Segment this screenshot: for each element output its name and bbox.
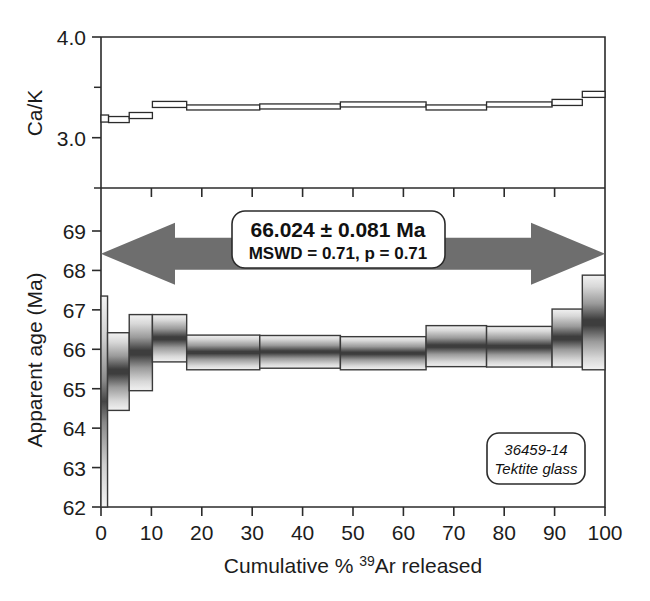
age-ytick-labels: 6968676665646362	[63, 220, 87, 519]
age-step-box	[108, 333, 130, 411]
age-step-box	[552, 309, 582, 367]
ca-k-step-box	[187, 105, 260, 110]
age-step-box	[152, 315, 186, 362]
age-ytick-label: 63	[63, 457, 86, 480]
ca-k-step-box	[129, 113, 152, 119]
age-ytick-label: 68	[63, 259, 86, 282]
age-step-box	[101, 296, 108, 507]
ca-k-step-box	[109, 117, 130, 123]
age-step-box	[426, 326, 486, 367]
plateau-age-text: 66.024 ± 0.081 Ma	[251, 218, 426, 241]
ca-k-step-box	[152, 101, 186, 107]
x-axis-title-part-1: Cumulative %	[224, 554, 359, 577]
age-ytick-label: 69	[63, 220, 86, 243]
age-ytick-label: 62	[63, 496, 86, 519]
ca-k-ytick-label-4: 4.0	[57, 26, 86, 49]
age-step-box	[260, 335, 341, 368]
plateau-stats-text: MSWD = 0.71, p = 0.71	[249, 244, 428, 263]
ca-k-panel-frame	[101, 37, 605, 188]
age-xtick-label: 70	[442, 521, 465, 544]
age-ytick-label: 64	[63, 417, 87, 440]
ca-k-step-box	[487, 102, 553, 107]
ca-k-step-box	[552, 99, 582, 105]
age-step-box	[340, 337, 426, 370]
age-xtick-label: 40	[291, 521, 314, 544]
x-axis-title-part-2: Ar released	[375, 554, 482, 577]
age-ytick-label: 65	[63, 378, 86, 401]
age-yticks	[92, 231, 101, 507]
ca-k-axis-title: Ca/K	[23, 90, 46, 137]
age-xtick-label: 100	[587, 521, 622, 544]
plateau-callout: 66.024 ± 0.081 Ma MSWD = 0.71, p = 0.71	[232, 211, 445, 268]
age-xtick-label: 10	[140, 521, 163, 544]
ca-k-step-box	[426, 105, 486, 110]
age-xticks-upper	[151, 188, 554, 197]
ca-k-step-box	[582, 91, 605, 97]
ca-k-step-box	[260, 104, 341, 109]
ca-k-panel: 4.0 3.0 Ca/K	[23, 26, 605, 188]
age-step-box	[487, 326, 553, 367]
age-xtick-label: 50	[341, 521, 364, 544]
sample-material-text: Tektite glass	[495, 460, 578, 477]
age-step-box	[129, 315, 152, 391]
age-xtick-label: 60	[392, 521, 415, 544]
ca-k-y-ticks	[92, 37, 101, 188]
x-axis-title: Cumulative % 39Ar released	[224, 553, 482, 577]
sample-id-text: 36459-14	[504, 441, 567, 458]
age-xtick-label: 90	[543, 521, 566, 544]
age-step-box	[187, 335, 260, 370]
age-xtick-labels: 0102030405060708090100	[95, 521, 622, 544]
ca-k-ytick-label-3: 3.0	[57, 127, 86, 150]
age-xtick-label: 30	[241, 521, 264, 544]
ca-k-step-box	[340, 102, 426, 107]
figure-canvas: 4.0 3.0 Ca/K 0102030405060708090100 6968…	[0, 0, 650, 601]
ca-k-step-box	[101, 115, 109, 122]
age-spectrum-panel: 0102030405060708090100 6968676665646362 …	[23, 188, 623, 577]
age-xtick-label: 0	[95, 521, 107, 544]
age-xtick-label: 20	[190, 521, 213, 544]
ca-k-step-series	[101, 91, 605, 122]
age-ytick-label: 67	[63, 299, 86, 322]
x-axis-title-superscript: 39	[359, 553, 375, 569]
ar-ar-age-spectrum-figure: 4.0 3.0 Ca/K 0102030405060708090100 6968…	[0, 0, 650, 601]
age-xticks-lower	[101, 507, 605, 516]
age-axis-title: Apparent age (Ma)	[23, 272, 46, 447]
age-step-box	[582, 275, 605, 370]
age-xtick-label: 80	[493, 521, 516, 544]
sample-callout: 36459-14 Tektite glass	[487, 433, 585, 484]
age-ytick-label: 66	[63, 338, 86, 361]
